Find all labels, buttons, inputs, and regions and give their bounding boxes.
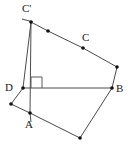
segment-bottom-a	[30, 113, 80, 138]
segment-d-c	[23, 22, 31, 88]
vertex-a	[28, 111, 32, 115]
vertex-b	[110, 86, 114, 90]
vertex-c	[81, 46, 85, 50]
vertex-outer-right	[115, 65, 119, 69]
right-angle-marker-group	[31, 77, 42, 88]
figure-canvas	[0, 0, 128, 149]
label-a: A	[25, 119, 33, 130]
vertex-bottom	[78, 136, 82, 140]
geometry-figure: C'CBDA	[0, 0, 128, 149]
segment-innertop-c	[48, 31, 83, 48]
label-c-prime: C'	[22, 3, 31, 14]
vertex-c-	[29, 20, 33, 24]
label-c: C	[82, 32, 89, 43]
segment-c-outerright	[83, 48, 117, 67]
segment-b-bottom	[80, 88, 112, 138]
label-d: D	[5, 82, 13, 93]
segment-a-left	[11, 104, 30, 113]
segment-c-a	[30, 22, 31, 113]
vertex-d	[21, 86, 25, 90]
vertex-left	[9, 102, 13, 106]
segment-c-innertop	[31, 22, 48, 31]
label-b: B	[116, 83, 123, 94]
vertex-inner-top	[46, 29, 50, 33]
right-angle-icon	[31, 77, 42, 88]
